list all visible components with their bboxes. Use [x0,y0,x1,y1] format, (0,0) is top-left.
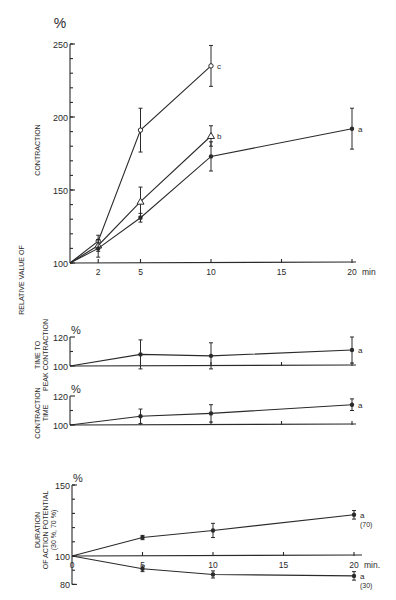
y-tick-label: 150 [53,186,68,196]
x-tick-label: 20 [349,560,359,570]
data-point-filled-circle [138,352,142,356]
series-a: a [70,337,363,369]
x-tick-label: 10 [206,267,216,277]
series-label: a [360,572,365,581]
data-point-filled-circle [209,354,213,358]
x-tick-label: 10 [208,560,218,570]
y-tick-label: 250 [53,40,68,50]
x-axis [70,424,356,425]
series-label: a [358,401,363,410]
series-b: b [70,126,222,263]
y-axis-label: TIME TOPEAK CONTRACTION [34,319,49,391]
data-point-filled-circle [350,126,354,130]
figure: RELATIVE VALUE OF 100150200250%25101520m… [0,0,396,600]
y-tick-label: 120 [53,333,68,343]
unit-percent-label: % [71,383,81,395]
y-tick-label: 100 [55,552,70,562]
x-tick-label: 15 [277,267,287,277]
unit-percent-label: % [54,15,66,31]
side-label-relative-value: RELATIVE VALUE OF [18,245,25,314]
data-point-filled-circle [209,154,213,158]
data-point-filled-circle [209,411,213,415]
unit-percent-label: % [73,472,83,484]
series-c: c [70,45,221,263]
series-label: a [360,511,365,520]
data-point-filled-circle [211,572,215,576]
x-axis [72,555,362,556]
series-a: a [70,399,363,425]
data-point-filled-circle [138,216,142,220]
series-label: c [217,62,221,71]
y-tick-label: 100 [53,421,68,431]
x-tick-label: 0 [70,560,75,570]
data-point-filled-circle [350,403,354,407]
x-tick-label: 5 [138,267,143,277]
x-tick-label: 20 [347,267,357,277]
y-tick-label: 80 [60,580,70,590]
data-point-filled-circle [350,348,354,352]
data-point-open-circle [209,64,213,68]
series-label: a [358,346,363,355]
y-tick-label: 200 [53,113,68,123]
y-tick-label: 120 [53,392,68,402]
y-axis-label: CONTRACTION [34,124,41,175]
y-tick-label: 100 [53,362,68,372]
y-tick-label: 150 [55,481,70,491]
data-point-open-triangle [208,132,215,138]
data-point-open-circle [138,128,142,132]
data-point-filled-circle [352,574,356,578]
panel-contraction: 100150200250%25101520minCONTRACTIONcba [34,15,376,277]
x-tick-label: 15 [279,560,289,570]
series-a-30: a(30) [72,556,372,590]
data-point-filled-circle [140,567,144,571]
series-line [70,66,211,263]
x-unit-label: min. [364,560,380,570]
series-a-70: a(70) [72,511,372,556]
data-point-filled-circle [96,246,100,250]
data-point-filled-circle [140,535,144,539]
y-axis-label: CONTRACTIONTIME [34,387,49,438]
series-sublabel: (30) [360,582,372,590]
x-axis [70,365,356,366]
panel-time-to-peak: 100120%TIME TOPEAK CONTRACTIONa [34,319,363,391]
series-label: a [358,125,363,134]
panel-action-potential: 80100150%05101520min.DURATIONOF ACTION P… [34,472,380,590]
x-tick-label: 2 [96,267,101,277]
data-point-filled-circle [211,528,215,532]
series-label: b [217,132,222,141]
series-sublabel: (70) [360,521,372,529]
panel-contraction-time: 100120%CONTRACTIONTIMEa [34,383,363,439]
x-axis [70,262,356,263]
unit-percent-label: % [71,324,81,336]
x-unit-label: min [362,267,376,277]
data-point-filled-circle [352,513,356,517]
y-tick-label: 100 [53,259,68,269]
data-point-filled-circle [138,414,142,418]
